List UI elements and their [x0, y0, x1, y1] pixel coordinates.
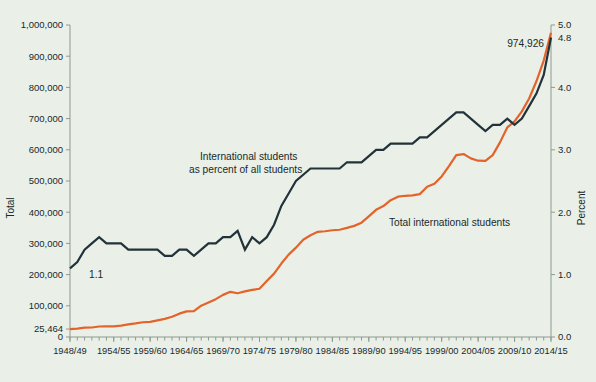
chart-container: 025,464100,000200,000300,000400,000500,0… [0, 0, 596, 382]
left-tick-label: 900,000 [29, 51, 63, 62]
x-tick-label: 1989/90 [352, 346, 386, 356]
annotation-total-series: Total international students [389, 217, 510, 228]
x-tick-label: 1979/80 [279, 346, 313, 356]
left-tick-label: 700,000 [29, 113, 63, 124]
x-axis-minor-ticks [70, 337, 551, 341]
left-tick-label: 300,000 [29, 238, 63, 249]
right-tick-label: 0.0 [558, 331, 571, 342]
x-tick-label: 2009/10 [498, 346, 532, 356]
left-axis-ticks: 025,464100,000200,000300,000400,000500,0… [21, 19, 70, 342]
left-tick-label: 1,000,000 [21, 19, 63, 30]
left-tick-label: 200,000 [29, 269, 63, 280]
x-tick-label: 1974/75 [243, 346, 277, 356]
chart-canvas: 025,464100,000200,000300,000400,000500,0… [0, 0, 596, 382]
label-percent-series-end: 4.8 [558, 32, 571, 43]
x-tick-label: 1984/85 [316, 346, 350, 356]
x-tick-label: 1969/70 [206, 346, 240, 356]
right-tick-label: 5.0 [558, 19, 571, 30]
left-tick-label: 400,000 [29, 207, 63, 218]
x-tick-label: 2004/05 [461, 346, 495, 356]
x-tick-label: 2014/15 [534, 346, 568, 356]
series-line-percent-of-all-students [70, 37, 551, 268]
right-tick-label: 4.0 [558, 82, 571, 93]
right-axis-ticks: 0.01.02.03.04.05.04.8 [551, 19, 571, 342]
series-line-total-international-students [70, 33, 551, 329]
right-tick-label: 1.0 [558, 269, 571, 280]
left-tick-label: 500,000 [29, 175, 63, 186]
annotation-percent-series-line1: International students [200, 151, 297, 162]
left-tick-label: 600,000 [29, 144, 63, 155]
x-tick-label: 1964/65 [170, 346, 204, 356]
left-tick-label: 25,464 [34, 323, 63, 334]
right-tick-label: 2.0 [558, 207, 571, 218]
x-tick-label: 1954/55 [97, 346, 131, 356]
left-axis-title: Total [5, 197, 16, 218]
label-percent-series-start: 1.1 [89, 269, 103, 280]
right-axis-title: Percent [576, 191, 587, 226]
left-tick-label: 800,000 [29, 82, 63, 93]
annotation-percent-series-line2: as percent of all students [189, 164, 302, 175]
right-tick-label: 3.0 [558, 144, 571, 155]
left-tick-label: 100,000 [29, 300, 63, 311]
x-tick-label: 1994/95 [388, 346, 422, 356]
x-tick-label: 1959/60 [133, 346, 167, 356]
x-tick-label: 1999/00 [425, 346, 459, 356]
x-tick-label: 1948/49 [53, 346, 87, 356]
label-total-series-end: 974,926 [507, 38, 544, 49]
